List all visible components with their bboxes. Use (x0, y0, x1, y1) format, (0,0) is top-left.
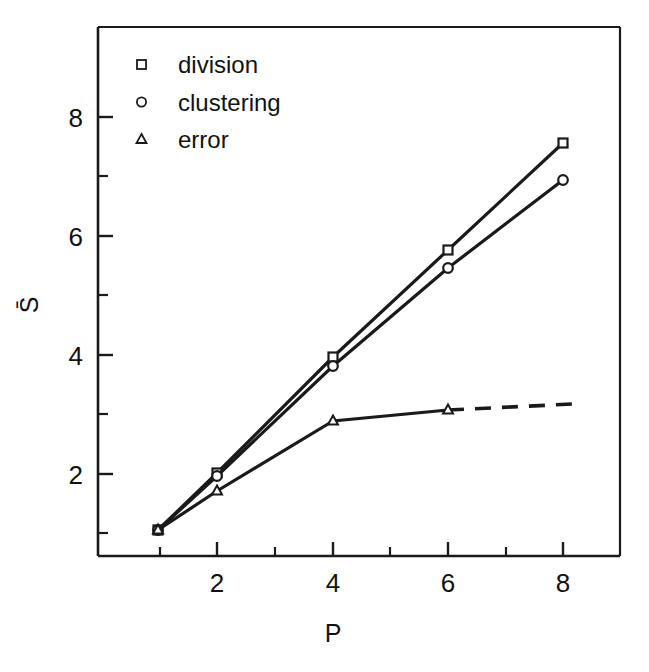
x-axis-title: P (325, 619, 342, 647)
chart-svg: 8 6 4 2 2 4 6 8 P S̄ (0, 0, 649, 672)
legend-label-division: division (178, 51, 258, 78)
x-tick-label-4: 4 (326, 568, 340, 598)
series-division-marker-p6 (444, 246, 453, 255)
series-clustering-marker-p8 (558, 175, 568, 185)
legend-label-clustering: clustering (178, 89, 281, 116)
series-division-marker-p8 (559, 139, 568, 148)
y-tick-label-6: 6 (69, 222, 83, 252)
series-clustering-marker-p6 (443, 263, 453, 273)
y-tick-label-4: 4 (69, 341, 83, 371)
x-tick-label-8: 8 (556, 568, 570, 598)
series-clustering-marker-p2 (212, 471, 222, 481)
legend-square-icon (137, 60, 146, 69)
legend-circle-icon (137, 97, 146, 106)
y-axis-title: S̄ (15, 297, 43, 314)
legend-label-error: error (178, 126, 229, 153)
series-clustering-marker-p4 (328, 361, 338, 371)
chart-figure: 8 6 4 2 2 4 6 8 P S̄ (0, 0, 649, 672)
x-tick-label-2: 2 (210, 568, 224, 598)
y-axis-title-group: S̄ (15, 297, 43, 314)
y-tick-label-8: 8 (69, 103, 83, 133)
y-tick-label-2: 2 (69, 460, 83, 490)
x-tick-label-6: 6 (441, 568, 455, 598)
